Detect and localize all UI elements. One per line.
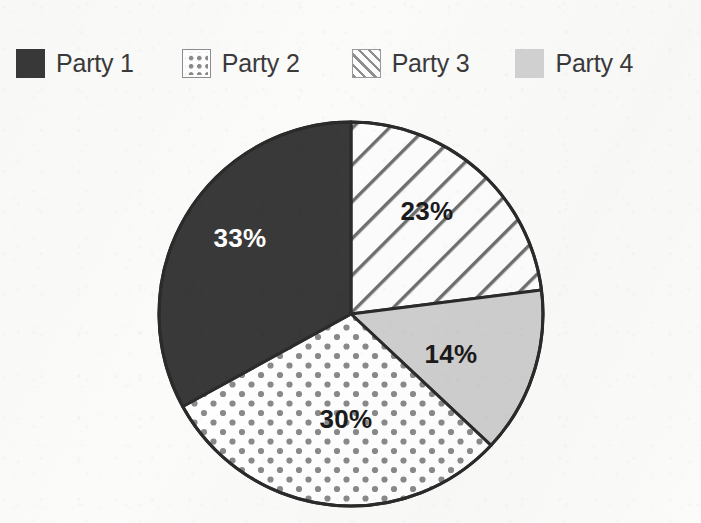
legend-label-party-3: Party 3 (392, 49, 470, 78)
legend-label-party-4: Party 4 (555, 49, 633, 78)
pie-slice-value-party-1: 33% (214, 223, 267, 253)
legend-label-party-2: Party 2 (222, 49, 300, 78)
solid-light-swatch-icon (515, 49, 544, 78)
pie-slice-value-party-2: 30% (320, 404, 373, 434)
dotted-swatch-icon (182, 49, 211, 78)
legend-item-party-3[interactable]: Party 3 (352, 42, 470, 84)
solid-dark-swatch-icon (16, 49, 45, 78)
legend-item-party-1[interactable]: Party 1 (16, 42, 134, 84)
legend-item-party-2[interactable]: Party 2 (182, 42, 300, 84)
legend-item-party-4[interactable]: Party 4 (515, 42, 633, 84)
chart-legend: Party 1 Party 2 Party 3 Party 4 (0, 42, 701, 84)
pie-slice-value-party-4: 14% (425, 339, 478, 369)
pie-slice-value-party-3: 23% (401, 196, 454, 226)
pie-slices-group (159, 122, 543, 506)
legend-label-party-1: Party 1 (56, 49, 134, 78)
hatched-swatch-icon (352, 49, 381, 78)
